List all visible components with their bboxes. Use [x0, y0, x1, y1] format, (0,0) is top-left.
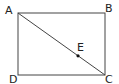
label-b: B	[105, 2, 113, 15]
diagonal-ac	[18, 13, 105, 75]
point-e-dot	[76, 54, 79, 57]
label-a: A	[5, 4, 13, 17]
label-c: C	[105, 73, 113, 84]
label-d: D	[9, 73, 17, 84]
label-e: E	[77, 41, 84, 54]
geometry-diagram: A B C D E	[0, 0, 119, 84]
